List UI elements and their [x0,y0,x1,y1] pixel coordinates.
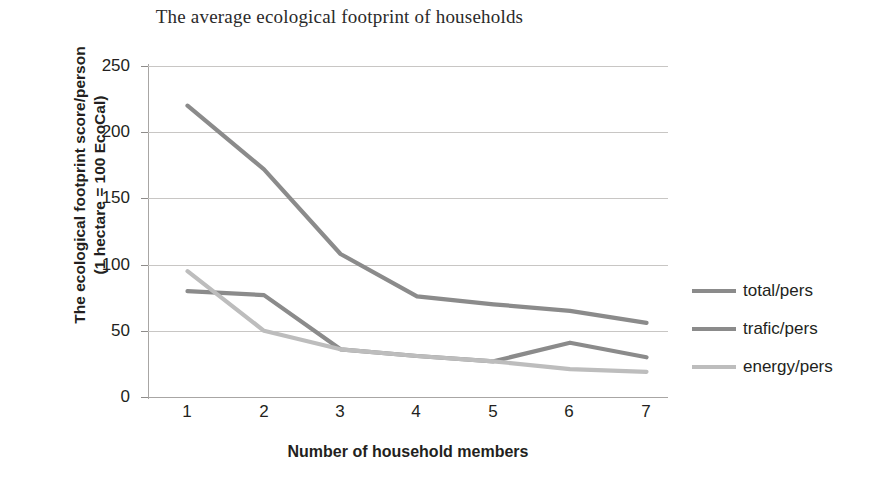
gridline-150 [148,198,668,199]
y-tick-label-0: 0 [84,387,130,407]
gridline-200 [148,132,668,133]
legend-swatch-total-pers [692,289,736,293]
legend-swatch-trafic-pers [692,327,736,331]
gridline-50 [148,331,668,332]
y-axis-title-line2: (1 hectare = 100 EcoCal) [90,35,110,335]
legend-item-trafic-pers: trafic/pers [692,310,877,348]
x-tick-label-7: 7 [626,402,666,422]
plot-area [148,66,668,397]
x-tick-label-1: 1 [167,402,207,422]
chart-title-text: The average ecological footprint of hous… [156,6,523,28]
x-tick-label-3: 3 [320,402,360,422]
legend: total/pers trafic/pers energy/pers [692,272,877,386]
x-tick-label-6: 6 [549,402,589,422]
legend-item-energy-pers: energy/pers [692,348,877,386]
x-axis-title: Number of household members [148,443,668,461]
y-tick-label-50: 50 [84,321,130,341]
legend-label-energy-pers: energy/pers [743,357,833,377]
legend-swatch-energy-pers [692,365,736,369]
x-tick-label-4: 4 [396,402,436,422]
x-tick-label-5: 5 [473,402,513,422]
legend-item-total-pers: total/pers [692,272,877,310]
y-tick-label-200: 200 [84,122,130,142]
gridline-0-baseline [148,397,668,398]
chart-title: The average ecological footprint of hous… [0,6,879,28]
y-tick-label-250: 250 [84,56,130,76]
legend-label-total-pers: total/pers [743,281,813,301]
legend-label-trafic-pers: trafic/pers [743,319,818,339]
y-axis-title-line1: The ecological footprint score/person [71,46,88,323]
y-axis-title: The ecological footprint score/person (1… [70,35,110,335]
y-tick-label-100: 100 [84,255,130,275]
gridline-100 [148,265,668,266]
y-tick-label-150: 150 [84,188,130,208]
gridline-250 [148,66,668,67]
x-tick-label-2: 2 [244,402,284,422]
